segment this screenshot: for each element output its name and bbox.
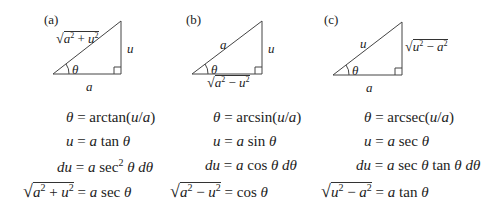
vertical-side-label-a: u xyxy=(127,42,134,55)
equation-c-1: θ = arcsec(u/a) xyxy=(364,110,454,125)
triangle-c xyxy=(333,22,402,75)
horizontal-side-label-b: √a2 − u2 xyxy=(207,75,250,90)
angle-label-a: θ xyxy=(72,63,78,76)
hypotenuse-label-b: a xyxy=(220,38,227,51)
right-angle-marker-a xyxy=(114,67,121,74)
horizontal-side-label-a: a xyxy=(86,80,93,93)
equation-c-4: √u2 − a2 = a tan θ xyxy=(321,182,429,200)
vertical-side-label-c: √u2 − a2 xyxy=(405,39,448,54)
angle-arc-c xyxy=(346,65,349,75)
equation-b-2: u = a sin θ xyxy=(213,134,276,149)
angle-label-c: θ xyxy=(352,64,358,77)
triangle-b xyxy=(192,21,262,74)
equation-a-3: du = a sec2 θ dθ xyxy=(57,158,153,175)
vertical-side-label-b: u xyxy=(268,42,275,55)
triangle-a xyxy=(53,21,121,74)
angle-arc-a xyxy=(66,64,69,74)
horizontal-side-label-c: a xyxy=(366,81,373,94)
equation-b-3: du = a cos θ dθ xyxy=(205,158,297,173)
angle-label-b: θ xyxy=(211,63,217,76)
equation-c-3: du = a sec θ tan θ dθ xyxy=(356,158,480,173)
equation-b-1: θ = arcsin(u/a) xyxy=(213,110,301,125)
equation-a-2: u = a tan θ xyxy=(66,134,130,149)
hypotenuse-label-a: √a2 + u2 xyxy=(56,31,99,46)
panel-label-a: (a) xyxy=(44,12,58,28)
right-angle-marker-c xyxy=(395,68,402,75)
equation-a-4: √a2 + u2 = a sec θ xyxy=(23,182,131,200)
right-angle-marker-b xyxy=(255,67,262,74)
panel-label-b: (b) xyxy=(186,12,201,28)
equation-a-1: θ = arctan(u/a) xyxy=(66,110,155,125)
hypotenuse-label-c: u xyxy=(360,37,367,50)
equation-c-2: u = a sec θ xyxy=(364,134,429,149)
angle-arc-b xyxy=(205,64,208,74)
panel-label-c: (c) xyxy=(324,12,338,28)
equation-b-4: √a2 − u2 = cos θ xyxy=(170,182,268,200)
